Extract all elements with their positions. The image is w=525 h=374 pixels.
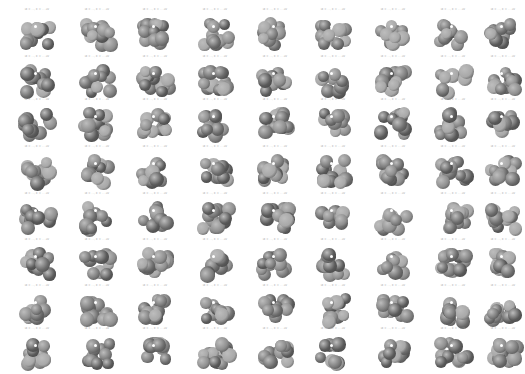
cluster-image — [480, 291, 525, 331]
cluster-caption: id = ..., E = ... eV — [304, 145, 362, 148]
cluster-cell: id = ..., E = ... eV — [126, 284, 184, 330]
cluster-image — [14, 15, 60, 55]
cluster-image — [430, 291, 476, 331]
atom — [508, 308, 521, 321]
cluster-cell: id = ..., E = ... eV — [364, 55, 422, 101]
cluster-cell: id = ..., E = ... eV — [304, 98, 362, 144]
highlight-atom — [152, 72, 155, 75]
cluster-caption: id = ..., E = ... eV — [186, 238, 244, 241]
cluster-caption: id = ..., E = ... eV — [364, 98, 422, 101]
cluster-grid: id = ..., E = ... eVid = ..., E = ... eV… — [0, 0, 525, 374]
cluster-caption: id = ..., E = ... eV — [304, 284, 362, 287]
atom — [508, 83, 521, 96]
cluster-image — [192, 105, 238, 145]
cluster-cell: id = ..., E = ... eV — [186, 145, 244, 191]
highlight-atom — [330, 115, 333, 118]
cluster-caption: id = ..., E = ... eV — [68, 8, 126, 11]
atom — [44, 207, 58, 221]
cluster-image — [370, 245, 416, 285]
cluster-image — [132, 62, 178, 102]
atom — [453, 263, 467, 277]
cluster-image — [132, 15, 178, 55]
cluster-caption: id = ..., E = ... eV — [126, 238, 184, 241]
atom — [335, 214, 348, 227]
highlight-atom — [272, 344, 275, 347]
highlight-atom — [212, 115, 215, 118]
atom — [388, 79, 400, 91]
atom — [21, 221, 35, 235]
cluster-image — [310, 152, 356, 192]
atom — [435, 356, 447, 368]
highlight-atom — [152, 344, 155, 347]
atom — [158, 113, 170, 125]
highlight-atom — [450, 72, 453, 75]
highlight-atom — [330, 72, 333, 75]
cluster-caption: id = ..., E = ... eV — [186, 55, 244, 58]
highlight-atom — [390, 25, 393, 28]
atom — [331, 109, 344, 122]
cluster-caption: id = ..., E = ... eV — [304, 238, 362, 241]
cluster-caption: id = ..., E = ... eV — [186, 284, 244, 287]
cluster-cell: id = ..., E = ... eV — [126, 8, 184, 54]
atom — [140, 119, 152, 131]
cluster-cell: id = ..., E = ... eV — [304, 192, 362, 238]
atom — [22, 124, 33, 135]
highlight-atom — [94, 301, 97, 304]
highlight-atom — [500, 115, 503, 118]
cluster-cell: id = ..., E = ... eV — [364, 145, 422, 191]
cluster-caption: id = ..., E = ... eV — [474, 145, 525, 148]
cluster-image — [480, 334, 525, 374]
atom — [273, 73, 286, 86]
atom — [322, 248, 336, 262]
atom — [81, 118, 96, 133]
atom — [315, 352, 326, 363]
atom — [99, 125, 111, 137]
highlight-atom — [212, 209, 215, 212]
cluster-caption: id = ..., E = ... eV — [364, 238, 422, 241]
atom — [273, 120, 287, 134]
atom — [459, 64, 474, 79]
atom — [200, 268, 215, 283]
cluster-image — [74, 152, 120, 192]
cluster-image — [370, 334, 416, 374]
cluster-caption: id = ..., E = ... eV — [304, 192, 362, 195]
cluster-image — [74, 291, 120, 331]
cluster-cell: id = ..., E = ... eV — [474, 238, 525, 284]
cluster-caption: id = ..., E = ... eV — [246, 8, 304, 11]
cluster-cell: id = ..., E = ... eV — [304, 8, 362, 54]
atom — [20, 67, 34, 81]
cluster-caption: id = ..., E = ... eV — [68, 327, 126, 330]
highlight-atom — [390, 209, 393, 212]
cluster-cell: id = ..., E = ... eV — [364, 192, 422, 238]
cluster-image — [310, 245, 356, 285]
cluster-cell: id = ..., E = ... eV — [304, 327, 362, 373]
cluster-caption: id = ..., E = ... eV — [126, 192, 184, 195]
atom — [258, 73, 272, 87]
atom — [87, 267, 100, 280]
cluster-caption: id = ..., E = ... eV — [474, 238, 525, 241]
cluster-cell: id = ..., E = ... eV — [246, 55, 304, 101]
atom — [102, 358, 114, 370]
cluster-caption: id = ..., E = ... eV — [68, 98, 126, 101]
atom — [374, 125, 388, 139]
cluster-cell: id = ..., E = ... eV — [68, 192, 126, 238]
atom — [263, 355, 278, 370]
cluster-image — [310, 15, 356, 55]
cluster-image — [252, 291, 298, 331]
cluster-image — [132, 291, 178, 331]
cluster-cell: id = ..., E = ... eV — [126, 238, 184, 284]
cluster-image — [252, 62, 298, 102]
atom — [160, 124, 172, 136]
cluster-cell: id = ..., E = ... eV — [364, 327, 422, 373]
atom — [32, 211, 45, 224]
cluster-cell: id = ..., E = ... eV — [474, 145, 525, 191]
cluster-caption: id = ..., E = ... eV — [474, 327, 525, 330]
cluster-cell: id = ..., E = ... eV — [186, 98, 244, 144]
cluster-caption: id = ..., E = ... eV — [364, 192, 422, 195]
atom — [455, 305, 470, 320]
atom — [197, 356, 210, 369]
atom — [219, 19, 230, 30]
atom — [258, 125, 273, 140]
highlight-atom — [450, 209, 453, 212]
atom — [338, 154, 351, 167]
